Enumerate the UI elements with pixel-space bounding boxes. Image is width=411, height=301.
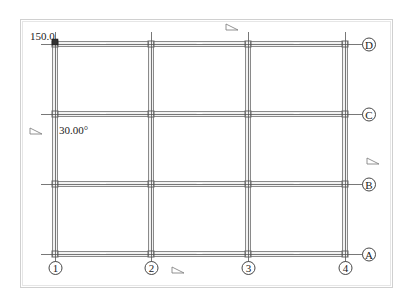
structural-grid-plan: DCBA1234: [0, 0, 411, 301]
frame-inner-border: [23, 22, 391, 286]
axis-lines: [41, 32, 363, 262]
axis-bubbles: DCBA1234: [49, 38, 376, 275]
axis-bubble-label: D: [365, 39, 373, 51]
axis-bubble-label: 2: [149, 262, 155, 274]
dimension-label: 150.0: [30, 31, 55, 42]
beams: [52, 41, 348, 257]
frame-outer-border: [21, 20, 393, 288]
axis-bubble-label: 1: [53, 262, 59, 274]
triangle-markers: [30, 24, 379, 273]
angle-label: 30.00°: [59, 125, 88, 136]
triangle-marker-icon: [30, 128, 42, 134]
triangle-marker-icon: [367, 158, 379, 164]
drawing-canvas[interactable]: DCBA1234 150.0 30.00°: [0, 0, 411, 301]
axis-bubble-label: 3: [246, 262, 252, 274]
axis-bubble-label: B: [365, 179, 372, 191]
triangle-marker-icon: [226, 24, 238, 30]
drawing-frame: [21, 20, 393, 288]
axis-bubble-label: A: [365, 249, 373, 261]
axis-bubble-label: C: [365, 109, 372, 121]
triangle-marker-icon: [172, 267, 184, 273]
axis-bubble-label: 4: [343, 262, 349, 274]
